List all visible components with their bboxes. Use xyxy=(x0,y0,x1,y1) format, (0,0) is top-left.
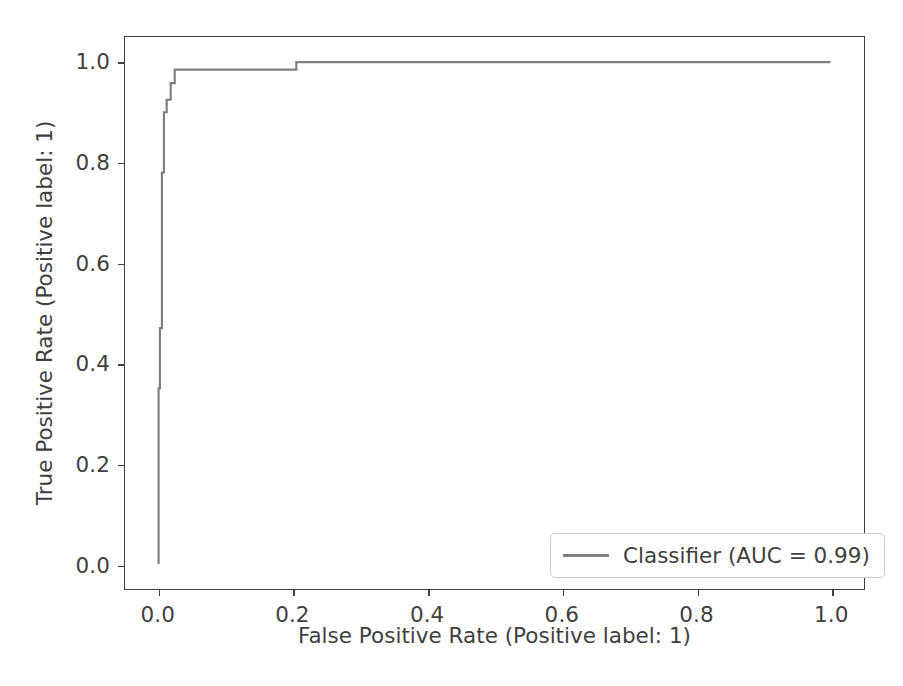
y-tick-mark xyxy=(118,566,125,567)
y-tick-label: 1.0 xyxy=(76,49,111,74)
y-tick-label: 0.0 xyxy=(76,552,111,577)
y-tick-label: 0.6 xyxy=(76,250,111,275)
legend-line-swatch xyxy=(563,554,609,557)
legend-entry-label: Classifier (AUC = 0.99) xyxy=(623,543,870,568)
roc-curve-line xyxy=(159,62,831,564)
y-tick-mark xyxy=(118,163,125,164)
x-tick-mark xyxy=(293,589,294,596)
x-tick-mark xyxy=(428,589,429,596)
x-tick-mark xyxy=(832,589,833,596)
x-tick-mark xyxy=(159,589,160,596)
y-tick-label: 0.4 xyxy=(76,351,111,376)
plot-axes xyxy=(124,36,865,590)
y-tick-label: 0.8 xyxy=(76,149,111,174)
x-axis-label: False Positive Rate (Positive label: 1) xyxy=(124,623,865,648)
y-tick-mark xyxy=(118,465,125,466)
y-tick-mark xyxy=(118,62,125,63)
x-tick-mark xyxy=(698,589,699,596)
roc-figure: 0.00.20.40.60.81.0 0.00.20.40.60.81.0 Fa… xyxy=(0,0,903,686)
y-tick-mark xyxy=(118,364,125,365)
y-tick-mark xyxy=(118,264,125,265)
x-tick-mark xyxy=(563,589,564,596)
chart-legend: Classifier (AUC = 0.99) xyxy=(550,533,885,578)
roc-curve-svg xyxy=(125,37,864,589)
y-tick-label: 0.2 xyxy=(76,452,111,477)
y-axis-label: True Positive Rate (Positive label: 1) xyxy=(32,36,57,590)
